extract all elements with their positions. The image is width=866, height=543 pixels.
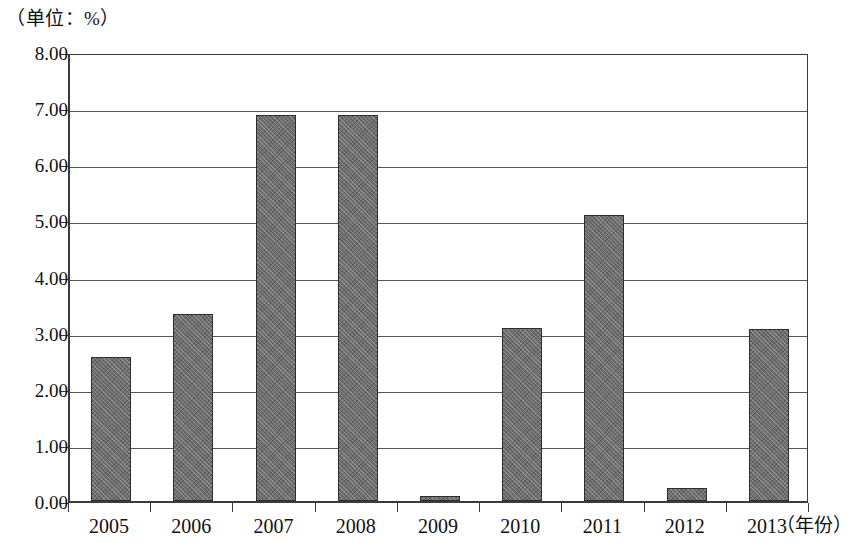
bar-2006 <box>173 314 213 501</box>
x-axis: 200520062007200820092010201120122013 <box>68 503 808 543</box>
y-tick-label: 8.00 <box>10 44 68 63</box>
x-tick-mark <box>397 503 398 512</box>
x-tick-mark <box>150 503 151 512</box>
bar-2009 <box>420 496 460 501</box>
x-tick-label-2012: 2012 <box>665 515 705 537</box>
y-tick-label: 2.00 <box>10 381 68 400</box>
chart-unit-caption: （单位：%） <box>6 6 120 32</box>
plot-area <box>68 54 808 503</box>
y-tick-label: 6.00 <box>10 156 68 175</box>
x-tick-label-2005: 2005 <box>89 515 129 537</box>
x-tick-mark <box>232 503 233 512</box>
y-tick-label: 1.00 <box>10 437 68 456</box>
bar-2008 <box>338 115 378 501</box>
y-tick-label: 0.00 <box>10 493 68 512</box>
gridline <box>70 280 807 281</box>
x-tick-mark <box>644 503 645 512</box>
y-tick-label: 3.00 <box>10 325 68 344</box>
x-tick-label-2008: 2008 <box>336 515 376 537</box>
x-tick-label-2010: 2010 <box>500 515 540 537</box>
y-tick-label: 4.00 <box>10 269 68 288</box>
bar-2005 <box>91 357 131 501</box>
x-tick-label-2009: 2009 <box>418 515 458 537</box>
x-axis-title: （年份） <box>776 515 852 537</box>
bar-2011 <box>584 215 624 501</box>
x-tick-mark <box>315 503 316 512</box>
x-tick-label-2006: 2006 <box>171 515 211 537</box>
bar-2010 <box>502 328 542 501</box>
y-axis: 8.007.006.005.004.003.002.001.000.00 <box>0 54 68 503</box>
gridline <box>70 167 807 168</box>
bar-2013 <box>749 329 789 501</box>
bar-2012 <box>667 488 707 501</box>
bar-2007 <box>256 115 296 501</box>
x-tick-label-2011: 2011 <box>583 515 622 537</box>
y-tick-label: 5.00 <box>10 212 68 231</box>
y-tick-label: 7.00 <box>10 100 68 119</box>
gridline <box>70 223 807 224</box>
x-tick-mark <box>808 503 809 512</box>
x-tick-mark <box>68 503 69 512</box>
x-tick-mark <box>726 503 727 512</box>
bar-chart: （单位：%） 8.007.006.005.004.003.002.001.000… <box>0 0 866 543</box>
gridline <box>70 111 807 112</box>
x-tick-mark <box>561 503 562 512</box>
x-tick-mark <box>479 503 480 512</box>
x-tick-label-2007: 2007 <box>254 515 294 537</box>
